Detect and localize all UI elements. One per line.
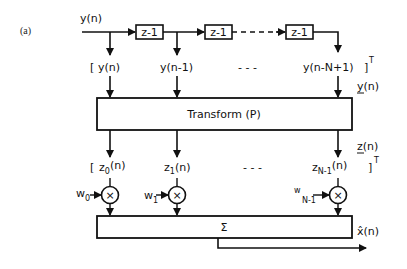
- svg-text:]: ]: [368, 161, 372, 174]
- transpose-mark: T: [368, 56, 374, 65]
- weight-0: w0: [76, 187, 90, 203]
- transform-domain-filter-diagram: (a) y(n) z-1 z-1 z-1 [ y(n) y(n-1) - - -…: [0, 0, 407, 269]
- svg-text:×: ×: [333, 189, 342, 202]
- input-vector-name: y(n): [357, 80, 379, 93]
- delay-element-n: z-1: [286, 25, 313, 39]
- multiplier-n: × wN-1: [294, 178, 347, 215]
- open-bracket: [: [90, 61, 94, 74]
- multiplier-1: × w1: [144, 178, 186, 215]
- output-vector-row: [ z0(n) z1(n) - - - zN-1(n) ] T: [90, 156, 379, 176]
- svg-text:z-1: z-1: [291, 26, 308, 39]
- sigma-icon: Σ: [221, 221, 228, 234]
- multiplier-0: × w0: [76, 178, 119, 215]
- transform-block: Transform (P): [97, 98, 352, 130]
- svg-text:×: ×: [172, 189, 181, 202]
- transform-input-arrows: [110, 76, 338, 97]
- close-bracket: ]: [364, 61, 368, 74]
- multiply-icon: ×: [105, 189, 114, 202]
- input-label: y(n): [80, 12, 102, 25]
- ellipsis: - - -: [238, 61, 257, 74]
- zn-label: zN-1(n): [312, 159, 347, 176]
- z1-label: z1(n): [164, 161, 190, 176]
- panel-label: (a): [20, 25, 31, 37]
- transform-label: Transform (P): [186, 108, 260, 121]
- svg-text:T: T: [373, 156, 379, 165]
- input-vector-row: [ y(n) y(n-1) - - - y(n-N+1) ] T y(n): [90, 56, 379, 93]
- svg-text:z-1: z-1: [141, 26, 158, 39]
- weight-n: wN-1: [294, 186, 316, 205]
- transform-output-arrows: [110, 130, 338, 157]
- output-label: x̂(n): [357, 225, 379, 238]
- output-vector-name: z(n): [357, 140, 378, 153]
- tap-label-n: y(n-N+1): [303, 61, 353, 74]
- svg-text:- - -: - - -: [243, 161, 262, 174]
- delay-element-1: z-1: [136, 25, 163, 39]
- summation-block: Σ: [97, 216, 352, 238]
- weight-1: w1: [144, 189, 158, 205]
- svg-text:z-1: z-1: [210, 26, 227, 39]
- tap-label-1: y(n-1): [160, 61, 193, 74]
- svg-text:[: [: [90, 161, 94, 174]
- tap-label-0: y(n): [98, 61, 120, 74]
- z0-label: z0(n): [99, 159, 125, 176]
- delay-element-2: z-1: [205, 25, 232, 39]
